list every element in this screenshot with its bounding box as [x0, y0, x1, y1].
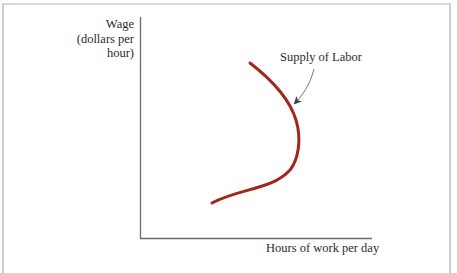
annotation-arrow — [295, 69, 314, 103]
x-axis-label: Hours of work per day — [266, 241, 379, 256]
supply-of-labor-label: Supply of Labor — [280, 50, 362, 65]
supply-of-labor-curve — [212, 63, 299, 203]
